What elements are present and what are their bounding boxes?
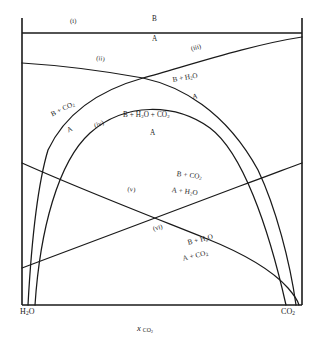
phase-label-i-above: B (152, 16, 157, 24)
phase-diagram-figure: (i) B A (ii) (iii) B + H2O A B + CO2 A (… (0, 0, 316, 340)
curve-vi (22, 163, 299, 305)
curve-iv (35, 109, 286, 305)
axis-label-co2: CO2 (281, 308, 295, 317)
phase-label-i-below: A (152, 36, 157, 44)
axis-label-h2o: H2O (20, 308, 35, 317)
phase-label-iv-above: B + H2O + CO2 (123, 112, 170, 120)
curve-v (22, 163, 302, 268)
curve-label-i: (i) (70, 17, 77, 24)
curve-ii (22, 63, 296, 305)
phase-label-iv-below: A (150, 130, 155, 138)
phase-label-iii-below: A (192, 93, 199, 102)
phase-diagram-plot (0, 0, 316, 340)
curve-iii (28, 37, 302, 305)
axis-title-xco2: x CO2 (137, 324, 153, 334)
curve-label-ii: (ii) (96, 54, 105, 62)
curve-label-v: (v) (127, 185, 136, 193)
